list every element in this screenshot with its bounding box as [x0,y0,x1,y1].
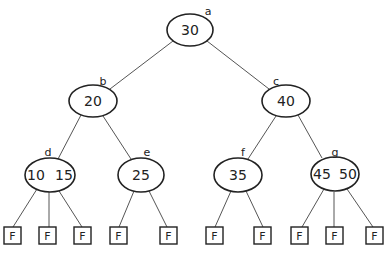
svg-text:F: F [259,230,265,243]
node-d-key2: 15 [55,167,73,183]
node-g-label: g [332,146,339,159]
leaf-6: F [206,227,223,244]
node-b: 20 b [69,75,117,117]
node-f-label: f [241,146,246,159]
node-g-key2: 50 [339,166,357,182]
svg-text:F: F [296,230,302,243]
svg-text:F: F [115,230,121,243]
svg-text:F: F [331,230,337,243]
edge-a-b [110,41,173,89]
edge-c-f [248,116,276,159]
edges [13,41,373,227]
edge-e-leaf2 [149,191,167,227]
edge-f-leaf1 [215,191,231,227]
edge-c-g [298,115,322,158]
edge-b-e [103,116,131,159]
node-g-key1: 45 [313,166,331,182]
edge-b-d [58,115,81,159]
node-f: 35 f [214,146,262,192]
edge-g-leaf1 [302,189,324,227]
leaf-3: F [74,227,91,244]
leaf-10: F [366,227,383,244]
leaf-8: F [291,227,308,244]
node-b-label: b [100,75,107,88]
node-d-label: d [45,146,52,159]
node-a: 30 a [167,5,213,46]
node-g: 45 50 g [311,146,359,191]
node-e-value: 25 [132,167,150,183]
edge-f-leaf2 [246,191,263,227]
leaf-4: F [110,227,127,244]
node-a-value: 30 [181,22,199,38]
node-c: 40 c [262,75,310,117]
svg-text:F: F [44,230,50,243]
node-d: 10 15 d [25,146,75,192]
leaf-9: F [326,227,343,244]
node-a-label: a [205,5,212,18]
node-b-value: 20 [84,93,102,109]
node-d-key1: 10 [27,167,45,183]
node-e-label: e [144,146,151,159]
edge-d-leaf1 [13,189,37,227]
leaf-5: F [160,227,177,244]
edge-g-leaf3 [347,189,373,227]
node-e: 25 e [118,146,164,192]
edge-d-leaf3 [59,191,82,227]
leaf-7: F [254,227,271,244]
node-f-value: 35 [229,167,247,183]
leaf-2: F [39,227,56,244]
svg-text:F: F [9,230,15,243]
svg-text:F: F [371,230,377,243]
svg-text:F: F [165,230,171,243]
svg-text:F: F [211,230,217,243]
node-c-label: c [273,75,279,88]
leaf-1: F [4,227,21,244]
svg-text:F: F [79,230,85,243]
edge-a-c [207,41,269,89]
node-c-value: 40 [277,93,295,109]
tree-diagram: 30 a 20 b 40 c 10 15 d 25 e 35 f 45 50 g… [0,0,386,256]
leaves: F F F F F F F F F F [4,227,383,244]
edge-e-leaf1 [119,191,134,227]
